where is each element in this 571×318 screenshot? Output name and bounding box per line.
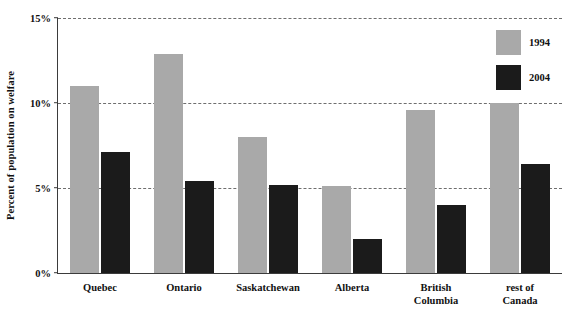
legend-swatch-2004 [496, 65, 521, 90]
legend-label-2004: 2004 [529, 72, 550, 83]
bar-group: Saskatchewan [226, 18, 310, 273]
legend-swatch-1994 [496, 30, 521, 55]
y-axis-title: Percent of population on welfare [0, 0, 22, 290]
bar-2004 [521, 164, 550, 273]
x-axis-category-label: Ontario [142, 281, 226, 294]
bar-2004 [353, 239, 382, 273]
x-axis-category-label: British Columbia [394, 281, 478, 307]
bar-1994 [322, 186, 351, 273]
plot-area: 0%5%10%15%QuebecOntarioSaskatchewanAlber… [57, 18, 562, 274]
bar-2004 [269, 185, 298, 273]
legend-item-1994: 1994 [496, 30, 550, 55]
y-tick-label: 5% [35, 183, 51, 194]
legend-label-1994: 1994 [529, 37, 550, 48]
bar-2004 [101, 152, 130, 273]
bar-2004 [437, 205, 466, 273]
bar-1994 [490, 103, 519, 273]
bar-group: Quebec [58, 18, 142, 273]
y-tick-label: 15% [30, 13, 51, 24]
bar-1994 [238, 137, 267, 273]
x-axis-category-label: Quebec [58, 281, 142, 294]
y-tick-label: 10% [30, 98, 51, 109]
x-axis-category-label: Saskatchewan [226, 281, 310, 294]
bar-2004 [185, 181, 214, 273]
bar-group: Ontario [142, 18, 226, 273]
chart-legend: 19942004 [496, 30, 550, 90]
bar-group: Alberta [310, 18, 394, 273]
y-tick-label: 0% [35, 268, 51, 279]
y-axis-title-text: Percent of population on welfare [6, 70, 17, 219]
x-axis-category-label: Alberta [310, 281, 394, 294]
bar-group: British Columbia [394, 18, 478, 273]
x-axis-category-label: rest of Canada [478, 281, 562, 307]
bar-1994 [70, 86, 99, 273]
bar-1994 [406, 110, 435, 273]
legend-item-2004: 2004 [496, 65, 550, 90]
bar-1994 [154, 54, 183, 273]
welfare-bar-chart: Percent of population on welfare 0%5%10%… [0, 0, 571, 318]
